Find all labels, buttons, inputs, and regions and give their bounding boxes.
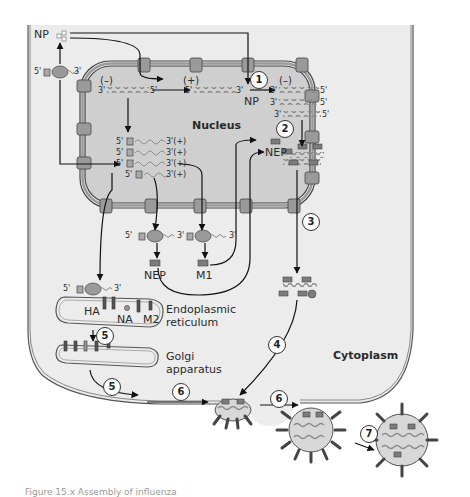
- label-mrna4-5prime: 5': [125, 171, 132, 179]
- step-4-badge: 4: [268, 336, 286, 354]
- label-mrna3-5prime: 5': [116, 160, 123, 168]
- label-na: NA: [117, 314, 133, 325]
- label-cytoplasm: Cytoplasm: [333, 350, 398, 361]
- released-virion: [367, 404, 437, 476]
- label-vrna2-3prime: 3': [270, 99, 277, 107]
- label-positive-strand: (+): [183, 76, 199, 86]
- budding-virion-late: [277, 408, 345, 462]
- label-ribosome-er-5prime: 5': [63, 285, 70, 293]
- label-mrna3-3prime: 3'(+): [166, 160, 186, 168]
- label-nucleus: Nucleus: [192, 120, 241, 131]
- step-6-badge-first: 6: [172, 383, 190, 401]
- label-neg-3prime: 3': [98, 87, 105, 95]
- label-ribosome-nep-5prime: 5': [125, 232, 132, 240]
- label-nep-cyto: NEP: [144, 270, 166, 281]
- step-2-badge: 2: [276, 120, 294, 138]
- label-golgi-line1: Golgi: [166, 350, 194, 363]
- label-negative-strand: (–): [100, 76, 113, 86]
- step-6-badge-second: 6: [270, 390, 288, 408]
- budding-virion-early: [214, 399, 251, 428]
- step-1-badge: 1: [250, 71, 268, 89]
- label-m1-cyto: M1: [196, 270, 213, 281]
- label-vrna3-3prime: 3': [274, 111, 281, 119]
- label-m2: M2: [143, 314, 160, 325]
- step-7-badge: 7: [360, 425, 378, 443]
- label-mrna2-5prime: 5': [116, 149, 123, 157]
- label-er-line2: reticulum: [166, 316, 218, 329]
- label-mrna4-3prime: 3'(+): [166, 171, 186, 179]
- label-ribosome-m1-3prime: 3': [229, 232, 236, 240]
- label-vrna1-5prime: 5': [320, 87, 327, 95]
- label-mrna1-5prime: 5': [116, 138, 123, 146]
- label-ribosome-top-5prime: 5': [34, 68, 41, 76]
- step-5-badge-er: 5: [96, 327, 114, 345]
- label-ha: HA: [84, 306, 100, 317]
- label-vrna2-5prime: 5': [320, 99, 327, 107]
- figure-caption: Figure 15.x Assembly of influenza: [25, 487, 177, 497]
- label-mrna2-3prime: 3'(+): [166, 149, 186, 157]
- label-pos-3prime: 3': [236, 87, 243, 95]
- label-np-top: NP: [34, 29, 49, 40]
- step-3-badge: 3: [302, 213, 320, 231]
- label-neg-5prime: 5': [150, 87, 157, 95]
- step-5-badge-golgi: 5: [103, 378, 121, 396]
- label-vrna1-3prime: 3': [270, 87, 277, 95]
- label-golgi-line2: apparatus: [166, 363, 222, 376]
- label-np-inner: NP: [244, 96, 259, 107]
- label-er-line1: Endoplasmic: [166, 303, 236, 316]
- label-nep-inner: NEP: [265, 147, 287, 158]
- label-mrna1-3prime: 3'(+): [166, 138, 186, 146]
- label-pos-5prime: 5': [185, 87, 192, 95]
- label-ribosome-er-3prime: 3': [114, 285, 121, 293]
- label-vrna3-5prime: 5': [322, 111, 329, 119]
- label-negative-strand-copies: (–): [279, 76, 292, 86]
- label-ribosome-top-3prime: 3': [74, 68, 81, 76]
